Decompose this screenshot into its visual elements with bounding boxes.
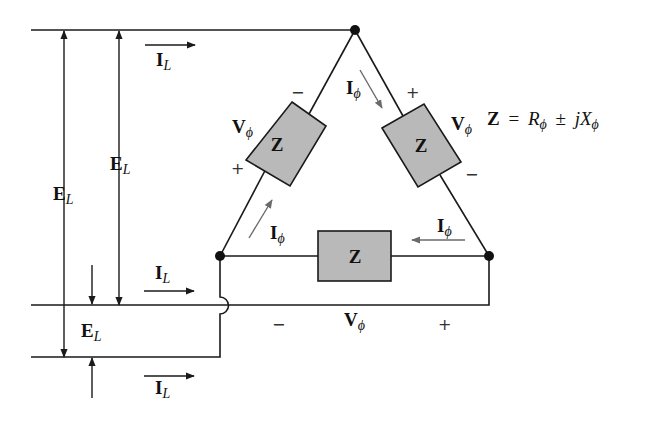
- impedance-right: Z: [382, 104, 461, 187]
- line-voltage-label-inner: EL: [110, 153, 131, 177]
- delta-load-diagram: Z Z Z EL EL EL IL IL IL Iϕ Iϕ Iϕ Vϕ: [0, 0, 648, 425]
- svg-text:Z: Z: [415, 135, 428, 156]
- svg-text:−: −: [291, 83, 304, 102]
- node-bottom-left: [215, 251, 225, 261]
- phase-voltage-label-right: Vϕ: [451, 113, 472, 137]
- impedance-left: Z: [246, 102, 326, 186]
- line-current-label-b: IL: [155, 262, 170, 286]
- line-voltage-label-bottom: EL: [81, 320, 102, 344]
- line-current-label-a: IL: [156, 49, 171, 73]
- svg-text:+: +: [438, 315, 451, 334]
- svg-text:Z: Z: [349, 246, 362, 267]
- svg-text:−: −: [465, 165, 478, 184]
- phase-current-label-top: Iϕ: [346, 77, 361, 101]
- svg-text:+: +: [231, 159, 244, 178]
- line-current-arrows: [144, 45, 195, 376]
- line-voltage-arrows: [64, 31, 119, 398]
- phase-voltage-label-bottom: Vϕ: [344, 309, 365, 333]
- line-conductors: [31, 30, 489, 357]
- impedance-bottom: Z: [318, 231, 391, 281]
- line-b: [31, 256, 489, 305]
- svg-text:−: −: [272, 315, 285, 334]
- polarity-signs: − + + − − +: [231, 83, 478, 334]
- node-top: [350, 25, 360, 35]
- svg-text:+: +: [406, 83, 419, 102]
- line-voltage-label-outer: EL: [53, 183, 74, 207]
- impedance-formula: Z = Rϕ ± jXϕ: [487, 108, 599, 133]
- phase-current-label-left: Iϕ: [270, 222, 285, 246]
- phase-voltage-label-left: Vϕ: [232, 116, 253, 140]
- svg-text:Z: Z: [271, 134, 284, 155]
- line-current-label-c: IL: [155, 377, 170, 401]
- line-c: [31, 256, 229, 357]
- node-bottom-right: [484, 251, 494, 261]
- phase-current-label-right: Iϕ: [437, 215, 452, 239]
